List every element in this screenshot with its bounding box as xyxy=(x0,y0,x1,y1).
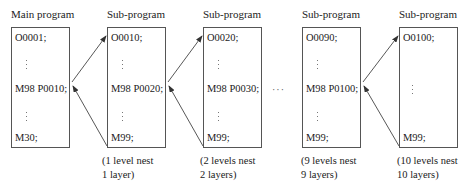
caption-line-1: (1 level nest xyxy=(102,154,153,168)
vertical-ellipsis-icon xyxy=(317,112,319,124)
caption-line-2: 2 layers) xyxy=(200,168,255,182)
program-number: O0090; xyxy=(306,32,338,43)
subprogram-2-box: O0020; M98 P0030; M99; xyxy=(203,27,262,148)
vertical-ellipsis-icon xyxy=(122,112,124,124)
program-number: O0010; xyxy=(111,32,143,43)
main-program-box: O0001; M98 P0010; M30; xyxy=(11,27,70,148)
subprogram-call: M98 P0100; xyxy=(306,83,358,94)
vertical-ellipsis-icon xyxy=(26,112,28,124)
vertical-ellipsis-icon xyxy=(218,112,220,124)
caption-line-2: 9 layers) xyxy=(301,168,356,182)
subprogram-9-caption: (9 levels nest 9 layers) xyxy=(301,154,356,182)
vertical-ellipsis-icon xyxy=(218,60,220,72)
subprogram-1-title: Sub-program xyxy=(107,8,165,20)
main-program-title: Main program xyxy=(11,8,74,20)
caption-line-1: (2 levels nest xyxy=(200,154,255,168)
subprogram-call: M98 P0010; xyxy=(15,83,67,94)
call-arrow-2 xyxy=(168,36,202,82)
program-number: O0020; xyxy=(207,32,239,43)
subprogram-10-title: Sub-program xyxy=(399,8,457,20)
horizontal-ellipsis-icon: ··· xyxy=(272,84,285,95)
program-end: M99; xyxy=(207,132,230,143)
program-end: M99; xyxy=(306,132,329,143)
vertical-ellipsis-icon xyxy=(412,85,414,97)
subprogram-call: M98 P0020; xyxy=(111,83,163,94)
subprogram-2-caption: (2 levels nest 2 layers) xyxy=(200,154,255,182)
return-arrow-2 xyxy=(169,86,203,146)
program-end: M99; xyxy=(403,132,426,143)
subprogram-2-title: Sub-program xyxy=(203,8,261,20)
program-number: O0100; xyxy=(403,32,435,43)
subprogram-9-title: Sub-program xyxy=(302,8,360,20)
call-arrow-10 xyxy=(363,36,398,82)
program-number: O0001; xyxy=(15,32,47,43)
subprogram-9-box: O0090; M98 P0100; M99; xyxy=(302,27,361,148)
vertical-ellipsis-icon xyxy=(317,60,319,72)
call-arrow-1 xyxy=(72,36,106,82)
vertical-ellipsis-icon xyxy=(122,60,124,72)
program-end: M99; xyxy=(111,132,134,143)
subprogram-call: M98 P0030; xyxy=(207,83,259,94)
vertical-ellipsis-icon xyxy=(26,60,28,72)
subprogram-10-caption: (10 levels nest 10 layers) xyxy=(397,154,458,182)
caption-line-2: 10 layers) xyxy=(397,168,458,182)
caption-line-1: (10 levels nest xyxy=(397,154,458,168)
subprogram-1-box: O0010; M98 P0020; M99; xyxy=(107,27,166,148)
subprogram-10-box: O0100; M99; xyxy=(399,27,458,148)
return-arrow-10 xyxy=(364,86,399,146)
program-end: M30; xyxy=(15,132,38,143)
subprogram-1-caption: (1 level nest 1 layer) xyxy=(102,154,153,182)
caption-line-1: (9 levels nest xyxy=(301,154,356,168)
caption-line-2: 1 layer) xyxy=(102,168,153,182)
return-arrow-1 xyxy=(73,86,107,146)
